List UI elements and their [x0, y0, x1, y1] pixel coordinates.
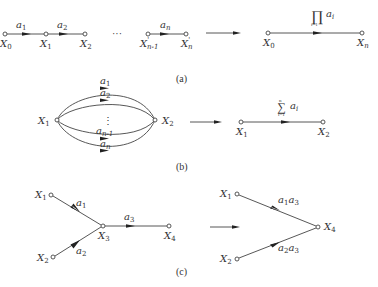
transform-arrow-a: [206, 31, 241, 35]
arrowhead-icon: [281, 120, 290, 124]
panel-b: a1 a2 ⋮ an-1 an X1 X2 n ∑ i=1 ai X1 X2 (…: [37, 75, 330, 173]
node-label-x1: X1: [219, 188, 232, 201]
signal-flow-graph-figure: a1 a2 an X0 X1 X2 X'n-1 X'n ··· ∏ i=1 ai…: [0, 0, 378, 287]
arrow-right-icon: [233, 31, 241, 35]
gain-label-a2: a2: [76, 245, 86, 258]
node-label-x1: X1: [34, 189, 47, 202]
gain-label-an-1: an-1: [96, 125, 113, 138]
node-label-x4: X4: [323, 221, 336, 234]
product-term: ai: [326, 8, 334, 21]
node-x2: [153, 118, 157, 122]
sum-term: ai: [290, 100, 298, 113]
gain-label-a3: a3: [124, 211, 134, 224]
arrowhead-icon: [22, 32, 31, 36]
node-label-x2: X2: [219, 253, 232, 266]
gain-label-a2a3: a2a3: [278, 242, 299, 255]
panel-caption-b: (b): [176, 161, 188, 173]
transform-arrow-c: [210, 225, 240, 229]
gain-label-an: an: [160, 19, 171, 32]
ellipsis: ···: [112, 28, 122, 39]
node-label-xn: X'n: [180, 36, 193, 51]
gain-label-a1a3: a1a3: [278, 194, 299, 207]
gain-label-a2: a2: [100, 87, 110, 100]
panel-c: a1 a2 a3 X1 X2 X3 X4 a1a3 a2a3 X1 X2 X4: [34, 188, 336, 278]
panel-a-after: ∏ i=1 ai X0 Xn: [262, 8, 369, 50]
node-x0: [3, 32, 7, 36]
gain-label-an: an: [100, 138, 111, 151]
gain-label-a1: a1: [76, 197, 86, 210]
node-label-xn: Xn: [356, 37, 369, 50]
panel-caption-a: (a): [176, 73, 187, 85]
panel-c-before: a1 a2 a3 X1 X2 X3 X4: [34, 189, 176, 265]
arrowhead-icon: [270, 206, 280, 211]
sum-lower-limit: i=1: [278, 112, 285, 117]
node-label-x1: X1: [235, 126, 248, 139]
node-x1: [239, 120, 243, 124]
node-label-x2: X2: [79, 38, 92, 51]
node-x1: [235, 192, 239, 196]
node-label-x2: X2: [36, 252, 49, 265]
node-label-x1: X1: [37, 115, 50, 128]
gain-label-a2: a2: [57, 19, 67, 32]
node-x1: [55, 118, 59, 122]
node-label-xn-1: X'n-1: [139, 36, 158, 51]
node-label-x0: X0: [0, 38, 12, 51]
node-x4: [167, 224, 171, 228]
node-label-x2: X2: [161, 115, 174, 128]
vertical-ellipsis: ⋮: [103, 115, 113, 126]
arrowhead-icon: [313, 31, 322, 35]
node-label-x4: X4: [163, 230, 176, 243]
panel-a-before: a1 a2 an X0 X1 X2 X'n-1 X'n ···: [0, 19, 193, 51]
node-x4: [316, 225, 320, 229]
panel-b-after: n ∑ i=1 ai X1 X2: [235, 98, 330, 139]
arrow-right-icon: [214, 120, 222, 124]
arrowhead-icon: [59, 32, 68, 36]
panel-a: a1 a2 an X0 X1 X2 X'n-1 X'n ··· ∏ i=1 ai…: [0, 8, 369, 85]
node-x3: [101, 224, 105, 228]
node-x2: [235, 257, 239, 261]
node-xn: [360, 31, 364, 35]
node-x0: [266, 31, 270, 35]
panel-caption-c: (c): [176, 266, 187, 278]
arrowhead-icon: [126, 224, 135, 228]
gain-label-a1: a1: [16, 19, 26, 32]
node-x1: [44, 32, 48, 36]
node-x2: [321, 120, 325, 124]
node-label-x0: X0: [262, 37, 275, 50]
arrowhead-icon: [160, 32, 169, 36]
transform-arrow-b: [190, 120, 222, 124]
node-x1: [49, 193, 53, 197]
node-x2: [51, 255, 55, 259]
node-label-x1: X1: [39, 38, 52, 51]
panel-b-before: a1 a2 ⋮ an-1 an X1 X2: [37, 75, 174, 152]
node-x2: [83, 32, 87, 36]
product-lower-limit: i=1: [311, 22, 318, 27]
arrow-right-icon: [232, 225, 240, 229]
node-label-x2: X2: [317, 126, 330, 139]
node-label-x3: X3: [97, 230, 110, 243]
